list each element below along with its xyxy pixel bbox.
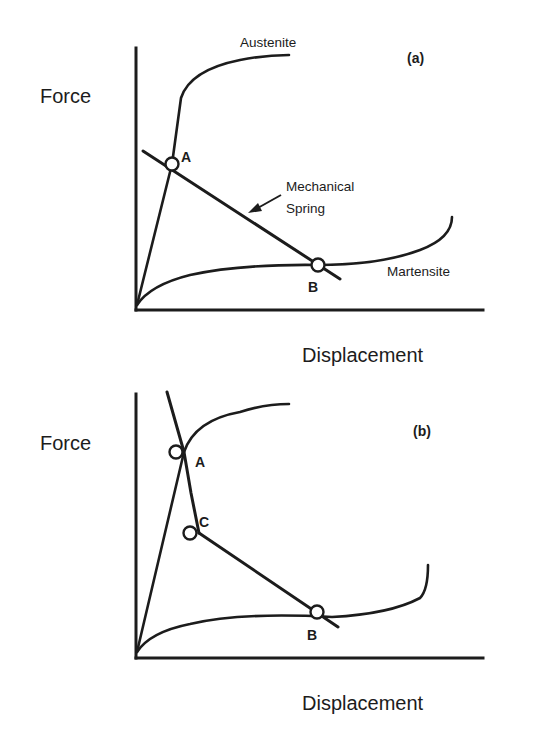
martensite-label-a: Martensite <box>387 264 450 279</box>
point-a-marker <box>166 158 179 171</box>
martensite-curve-b <box>137 565 428 652</box>
panel-label-b: (b) <box>413 423 431 439</box>
point-a-marker-b <box>170 446 183 459</box>
panel-label-a: (a) <box>407 50 424 66</box>
diagram-canvas: Force Displacement (a) Austenite Martens… <box>0 0 549 745</box>
point-b-label-b: B <box>307 627 317 643</box>
panel-a: Force Displacement (a) Austenite Martens… <box>40 35 483 366</box>
x-axis-label-a: Displacement <box>302 344 424 366</box>
y-axis-label-b: Force <box>40 432 91 454</box>
point-b-label: B <box>308 279 318 295</box>
point-c-label-b: C <box>199 514 209 530</box>
point-a-label-b: A <box>195 454 205 470</box>
panel-b: Force Displacement (b) A C B <box>40 392 483 714</box>
y-axis-label-a: Force <box>40 85 91 107</box>
figure: Force Displacement (a) Austenite Martens… <box>0 0 549 745</box>
austenite-curve-a <box>137 55 289 305</box>
spring-label-line1: Mechanical <box>286 179 354 194</box>
martensite-curve-a <box>137 217 452 305</box>
austenite-label-a: Austenite <box>240 35 296 50</box>
point-b-marker-b <box>311 606 324 619</box>
x-axis-label-b: Displacement <box>302 692 424 714</box>
spring-label-line2: Spring <box>286 201 325 216</box>
point-a-label: A <box>181 149 191 165</box>
point-b-marker <box>312 259 325 272</box>
point-c-marker-b <box>184 527 197 540</box>
arrow-icon <box>248 195 281 213</box>
